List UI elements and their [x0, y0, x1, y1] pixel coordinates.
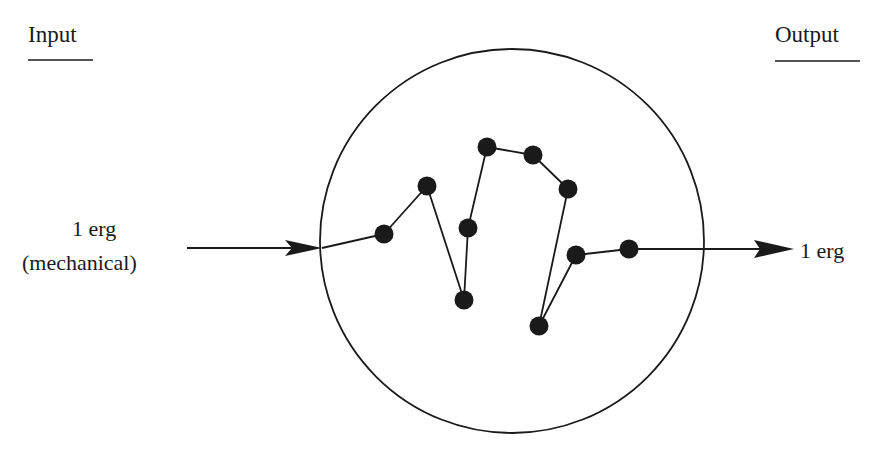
node-8 — [530, 317, 549, 336]
node-2 — [418, 177, 437, 196]
energy-conservation-diagram: Input Output 1 erg (mechanical) 1 erg — [0, 0, 888, 453]
output-heading: Output — [775, 22, 840, 47]
node-7 — [559, 180, 578, 199]
node-4 — [459, 219, 478, 238]
output-arrowhead-icon — [754, 240, 794, 258]
transformation-nodes — [375, 138, 639, 336]
output-energy-value: 1 erg — [800, 238, 844, 263]
output-arrow — [629, 240, 794, 258]
node-6 — [524, 146, 543, 165]
node-10 — [620, 240, 639, 259]
node-9 — [567, 246, 586, 265]
node-5 — [478, 138, 497, 157]
input-heading: Input — [28, 22, 77, 47]
input-energy-value: 1 erg — [72, 216, 116, 241]
energy-path — [322, 147, 629, 326]
node-1 — [375, 225, 394, 244]
node-3 — [455, 291, 474, 310]
input-arrow — [187, 240, 322, 256]
input-energy-type: (mechanical) — [22, 250, 137, 275]
